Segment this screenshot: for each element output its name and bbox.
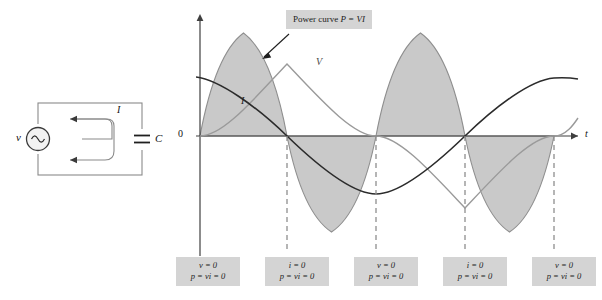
power-plot — [0, 0, 602, 300]
power-lobe-3 — [376, 33, 465, 136]
annotation-box-1: v = 0 p = vi = 0 — [176, 257, 240, 286]
power-shaded-regions — [200, 33, 554, 232]
annotation-4-condition: i = 0 — [449, 260, 501, 271]
t-axis-label: t — [585, 128, 588, 139]
annotation-2-condition: i = 0 — [271, 260, 323, 271]
annotation-1-condition: v = 0 — [182, 260, 234, 271]
annotation-2-power: p = vi = 0 — [271, 271, 323, 282]
axis-zero-label: 0 — [178, 128, 183, 139]
annotation-box-5: v = 0 p = vi = 0 — [532, 257, 596, 286]
annotation-4-power: p = vi = 0 — [449, 271, 501, 282]
callout-leader-arrow-icon — [262, 53, 271, 59]
annotation-3-power: p = vi = 0 — [360, 271, 412, 282]
annotation-box-4: i = 0 p = vi = 0 — [443, 257, 507, 286]
power-lobe-2 — [287, 136, 376, 232]
power-curve-callout: Power curve P = VI — [286, 10, 372, 29]
annotation-box-3: v = 0 p = vi = 0 — [354, 257, 418, 286]
callout-line-2: P = VI — [340, 14, 364, 24]
annotation-box-2: i = 0 p = vi = 0 — [265, 257, 329, 286]
annotation-3-condition: v = 0 — [360, 260, 412, 271]
power-lobe-4 — [465, 136, 554, 232]
callout-line-1: Power curve — [293, 14, 338, 24]
voltage-curve-label: V — [316, 56, 322, 67]
callout-leader-line — [264, 34, 289, 57]
annotation-5-condition: v = 0 — [538, 260, 590, 271]
t-axis-arrow-icon — [571, 133, 578, 140]
annotation-1-power: p = vi = 0 — [182, 271, 234, 282]
y-axis-arrow-icon — [197, 14, 204, 21]
current-curve-label: I — [241, 95, 244, 106]
figure-root: v C I — [0, 0, 602, 300]
annotation-5-power: p = vi = 0 — [538, 271, 590, 282]
